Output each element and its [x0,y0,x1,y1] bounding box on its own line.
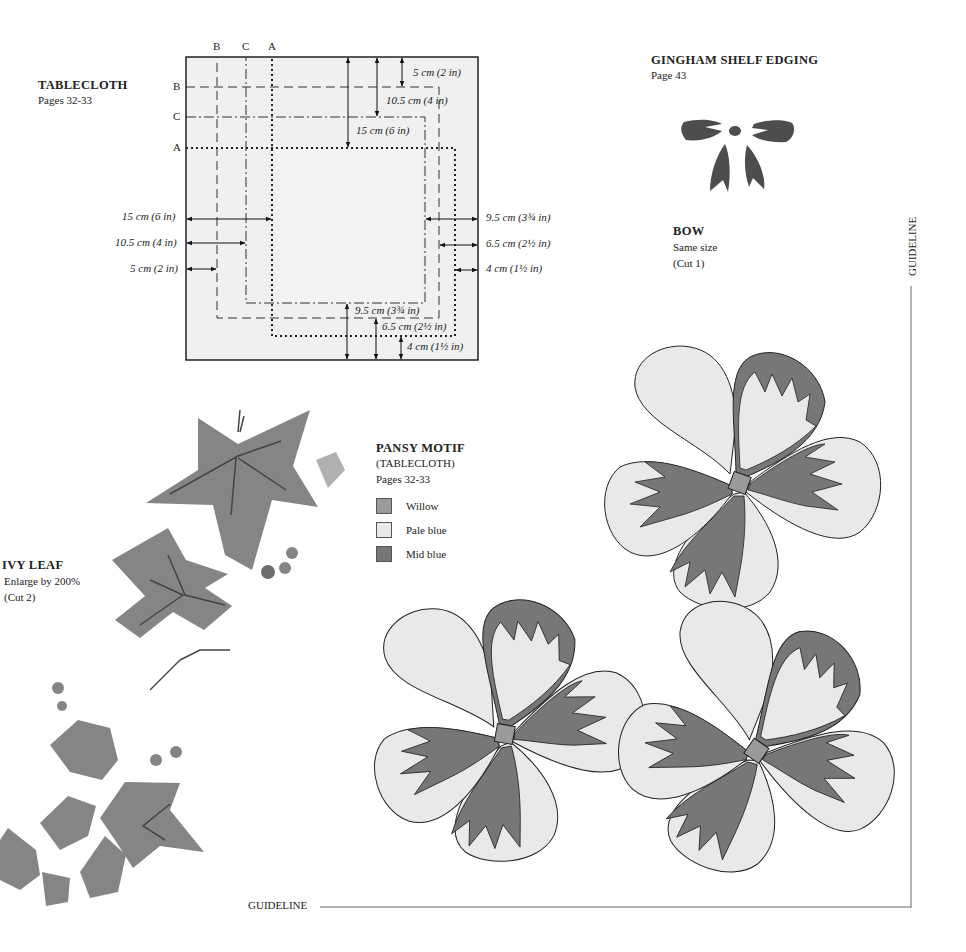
pansy-illustration [0,0,966,952]
